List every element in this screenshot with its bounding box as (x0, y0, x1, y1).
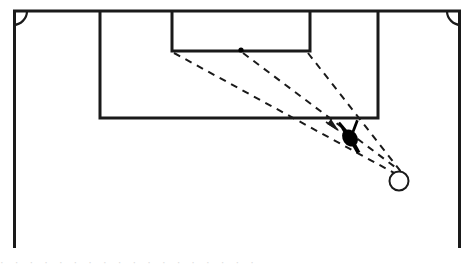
movement-line-left (174, 53, 396, 174)
reference-spot-marker (238, 47, 243, 52)
movement-line-right (308, 53, 402, 173)
player-head (337, 121, 347, 133)
ball-marker (390, 172, 409, 191)
movement-line-center (243, 53, 399, 170)
soccer-diagram-root: · · · · · · · · · · · · · · · · · · (0, 0, 474, 269)
goal-area-box (172, 11, 310, 51)
cropped-caption-strip: · · · · · · · · · · · · · · · · · · (0, 256, 474, 269)
pitch-diagram-canvas (0, 0, 474, 269)
penalty-area-box (100, 11, 378, 118)
